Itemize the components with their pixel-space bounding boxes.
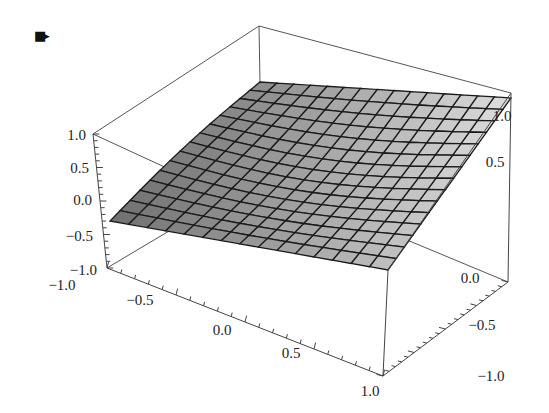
x-tick-label: −0.5 xyxy=(126,292,153,308)
z-tick-label: −0.5 xyxy=(66,228,93,244)
x-tick-label: 1.0 xyxy=(361,383,380,399)
x-tick-label: 0.0 xyxy=(213,322,232,338)
surface-mesh xyxy=(110,82,511,270)
y-tick-label: −0.5 xyxy=(468,317,495,333)
z-tick-label: 1.0 xyxy=(67,127,86,143)
z-tick-label: −1.0 xyxy=(70,262,97,278)
y-tick-label: 0.5 xyxy=(486,154,505,170)
z-tick-label: 0.5 xyxy=(70,160,89,176)
surface-plot: 1.00.50.0−0.5−1.0−1.0−0.50.00.51.01.00.5… xyxy=(0,0,549,413)
x-tick-label: −1.0 xyxy=(48,277,75,293)
z-tick-label: 0.0 xyxy=(73,192,92,208)
y-tick-label: 0.0 xyxy=(461,270,480,286)
x-tick-label: 0.5 xyxy=(282,345,301,361)
y-tick-label: 1.0 xyxy=(493,108,512,124)
y-tick-label: −1.0 xyxy=(477,368,504,384)
